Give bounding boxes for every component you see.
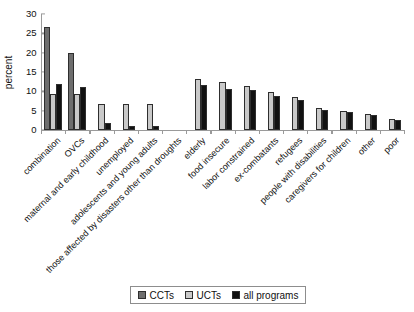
bar-all-programs: [322, 110, 328, 130]
bar-group: [41, 14, 65, 130]
y-axis-tick-label: 20: [26, 48, 41, 58]
bar-group: [235, 14, 259, 130]
x-axis-tick-mark: [210, 130, 211, 134]
bar-all-programs: [201, 85, 207, 130]
x-axis-tick-mark: [186, 130, 187, 134]
bar-all-programs: [129, 126, 135, 130]
bar-group: [283, 14, 307, 130]
bar-all-programs: [153, 126, 159, 130]
x-axis-tick-mark: [307, 130, 308, 134]
x-axis-tick-mark: [162, 130, 163, 134]
bar-all-programs: [105, 123, 111, 130]
bar-all-programs: [226, 89, 232, 130]
bar-all-programs: [250, 90, 256, 130]
x-axis-tick-mark: [331, 130, 332, 134]
x-axis-tick-mark: [235, 130, 236, 134]
bar-group: [186, 14, 210, 130]
bar-all-programs: [80, 87, 86, 130]
bar-group: [380, 14, 404, 130]
bar-all-programs: [56, 84, 62, 130]
bar-all-programs: [347, 112, 353, 130]
y-axis-tick-label: 10: [26, 87, 41, 97]
bar-all-programs: [395, 120, 401, 130]
x-axis-tick-mark: [380, 130, 381, 134]
bar-group: [162, 14, 186, 130]
bar-group: [89, 14, 113, 130]
bar-all-programs: [274, 96, 280, 130]
y-axis-title: percent: [3, 14, 15, 131]
bar-group: [331, 14, 355, 130]
bar-group: [210, 14, 234, 130]
x-axis-line: [41, 130, 404, 131]
bar-group: [114, 14, 138, 130]
y-axis-tick-label: 25: [26, 29, 41, 39]
bar-all-programs: [298, 100, 304, 130]
x-axis-tick-mark: [138, 130, 139, 134]
bar-group: [307, 14, 331, 130]
bar-chart-figure: percent 051015202530 CCTsUCTsall program…: [0, 0, 414, 312]
x-axis-tick-mark: [89, 130, 90, 134]
x-axis-tick-mark: [114, 130, 115, 134]
bar-group: [65, 14, 89, 130]
x-axis-tick-mark: [356, 130, 357, 134]
x-axis-tick-mark: [41, 130, 42, 134]
y-axis-tick-label: 15: [26, 67, 41, 77]
x-axis-tick-mark: [283, 130, 284, 134]
y-axis-tick-label: 5: [31, 106, 41, 116]
bar-group: [138, 14, 162, 130]
x-axis-tick-mark: [65, 130, 66, 134]
bar-group: [356, 14, 380, 130]
bar-group: [259, 14, 283, 130]
plot-area: [41, 14, 404, 130]
y-axis-tick-label: 0: [31, 125, 41, 135]
x-axis-tick-mark: [404, 130, 405, 134]
x-axis-tick-mark: [259, 130, 260, 134]
bar-all-programs: [371, 115, 377, 130]
y-axis-tick-label: 30: [26, 9, 41, 19]
